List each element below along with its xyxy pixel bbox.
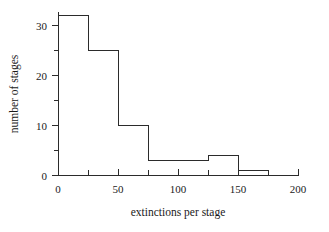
x-axis-tick-labels: 0 50 100 150 200 [55,183,307,195]
x-axis-title: extinctions per stage [131,206,226,219]
histogram-figure: 0 10 20 30 0 50 100 150 200 [0,0,329,232]
y-tick-label-10: 10 [36,120,48,132]
histogram-plot: 0 10 20 30 0 50 100 150 200 [0,0,329,232]
y-tick-label-30: 30 [36,20,48,32]
x-tick-label-0: 0 [55,183,61,195]
x-tick-label-100: 100 [170,183,187,195]
bar-step-outline [59,16,299,176]
y-axis-title: number of stages [8,54,21,133]
y-tick-label-20: 20 [36,70,48,82]
axes-group [58,12,298,176]
y-axis-tick-labels: 0 10 20 30 [36,20,48,182]
histogram-bars [59,16,299,176]
x-tick-label-200: 200 [290,183,307,195]
x-axis-title-text: extinctions per stage [131,206,226,219]
y-axis-ticks [52,26,58,176]
y-tick-label-0: 0 [42,170,48,182]
x-tick-label-150: 150 [230,183,247,195]
x-tick-label-50: 50 [113,183,125,195]
x-axis-ticks [59,169,299,176]
